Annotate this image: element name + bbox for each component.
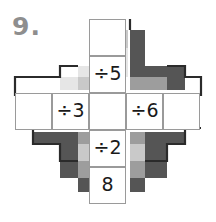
deco-block xyxy=(130,161,145,178)
puzzle-cell-left-inner[interactable]: ÷3 xyxy=(52,93,89,130)
puzzle-cell-bottom[interactable]: 8 xyxy=(89,167,126,204)
deco-block xyxy=(167,66,185,77)
deco-block xyxy=(145,161,167,178)
deco-block xyxy=(167,77,185,90)
deco-block xyxy=(60,77,78,90)
puzzle-cell-left-outer[interactable] xyxy=(15,93,52,130)
deco-block xyxy=(145,144,167,161)
deco-block xyxy=(60,144,78,161)
puzzle-cell-center[interactable] xyxy=(89,93,126,130)
deco-block xyxy=(130,77,150,90)
puzzle-cell-lower-middle[interactable]: ÷2 xyxy=(89,130,126,167)
puzzle-cell-value: ÷2 xyxy=(93,138,121,157)
deco-block xyxy=(60,161,78,178)
deco-block xyxy=(145,132,185,144)
deco-block xyxy=(33,132,78,144)
puzzle-cell-upper-middle[interactable]: ÷5 xyxy=(89,56,126,93)
deco-block xyxy=(130,144,145,161)
deco-block xyxy=(130,30,145,66)
puzzle-cell-value: ÷6 xyxy=(130,101,158,120)
puzzle-cell-right-inner[interactable]: ÷6 xyxy=(126,93,163,130)
deco-block xyxy=(150,77,167,90)
deco-block xyxy=(130,66,167,77)
puzzle-cell-value: ÷3 xyxy=(56,101,84,120)
puzzle-cell-top[interactable] xyxy=(89,19,126,56)
puzzle-cell-value: ÷5 xyxy=(93,64,121,83)
deco-block xyxy=(130,178,145,192)
puzzle-cell-value: 8 xyxy=(101,175,113,194)
deco-block xyxy=(130,132,145,144)
division-cross-puzzle: 9. ÷5÷3÷6÷28 xyxy=(0,0,216,222)
puzzle-cell-right-outer[interactable] xyxy=(163,93,200,130)
